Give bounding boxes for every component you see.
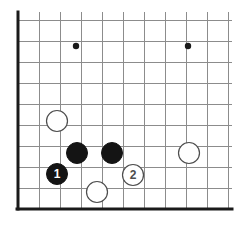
black-stone-right[interactable] xyxy=(102,143,123,164)
white-stone-upper-left[interactable] xyxy=(47,111,68,132)
star-point-left xyxy=(73,43,79,49)
black-stone-left[interactable] xyxy=(67,143,88,164)
star-points xyxy=(73,43,191,49)
stone-label-2: 2 xyxy=(123,169,143,181)
white-stone-right[interactable] xyxy=(179,143,200,164)
go-board-canvas xyxy=(0,0,246,228)
go-board-diagram: 12 xyxy=(0,0,246,228)
white-stone-bottom[interactable] xyxy=(87,182,108,203)
stone-label-1: 1 xyxy=(47,168,67,180)
star-point-right xyxy=(185,43,191,49)
